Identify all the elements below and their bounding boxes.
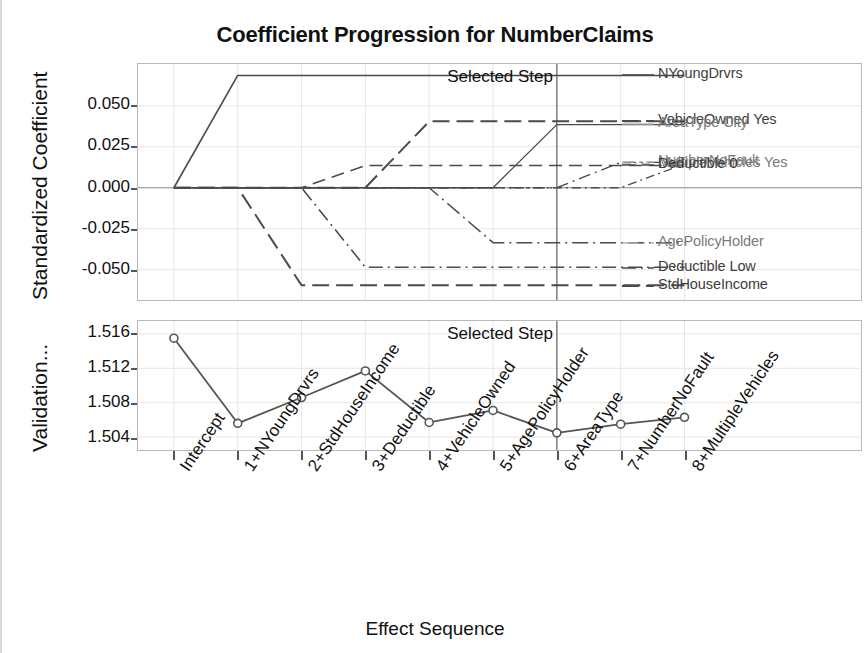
y-tick-label: 0.000 [2, 177, 130, 197]
legend-label: Deductible Low [658, 258, 756, 274]
legend-line-swatch [622, 239, 654, 247]
chart-canvas: Coefficient Progression for NumberClaims… [0, 0, 866, 653]
data-point-marker [234, 419, 242, 427]
y-tick-label: 0.050 [2, 94, 130, 114]
y-tick-label: 1.512 [2, 357, 130, 377]
page-title: Coefficient Progression for NumberClaims [2, 22, 866, 48]
legend-line-swatch [622, 282, 654, 290]
legend-line-swatch [622, 120, 654, 128]
legend-line-swatch [622, 71, 654, 79]
selected-step-label-top: Selected Step [427, 67, 553, 87]
legend-line-swatch [622, 264, 654, 272]
y-tick-label: 1.516 [2, 322, 130, 342]
selected-step-label-bottom: Selected Step [427, 324, 553, 344]
data-point-marker [553, 429, 561, 437]
legend-label: AgePolicyHolder [658, 233, 764, 249]
legend-label: AreaType City [658, 114, 748, 130]
legend-line-swatch [622, 161, 654, 169]
y-tick-label: 1.504 [2, 427, 130, 447]
y-tick-label: 0.025 [2, 135, 130, 155]
data-point-marker [617, 420, 625, 428]
data-point-marker [170, 334, 178, 342]
y-tick-label: -0.050 [2, 259, 130, 279]
legend-label: NYoungDrvrs [658, 65, 743, 81]
y-tick-label: -0.025 [2, 218, 130, 238]
legend-label: Deductible 0 [658, 155, 737, 171]
x-axis-title: Effect Sequence [2, 618, 866, 640]
legend-label: StdHouseIncome [658, 276, 768, 292]
y-tick-label: 1.508 [2, 392, 130, 412]
data-point-marker [425, 419, 433, 427]
data-point-marker [680, 413, 688, 421]
